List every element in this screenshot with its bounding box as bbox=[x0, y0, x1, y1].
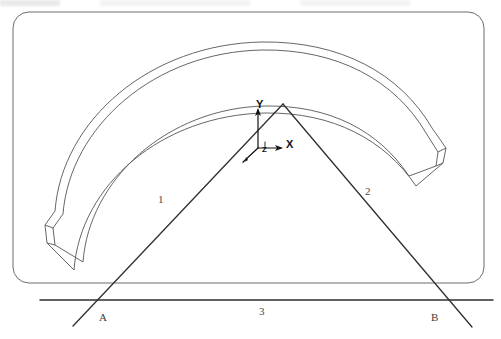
label-line-1: 1 bbox=[158, 194, 164, 205]
label-point-b: B bbox=[431, 312, 438, 323]
arch-left-end-face bbox=[45, 211, 74, 270]
arch-left-end-face-inner bbox=[53, 214, 83, 262]
label-line-2: 2 bbox=[365, 186, 371, 197]
arch-near-inner-arc bbox=[83, 106, 409, 262]
z-axis-line bbox=[243, 148, 258, 162]
slope-line-2 bbox=[283, 104, 472, 327]
slope-lines-group bbox=[73, 104, 472, 327]
arch-vault-body bbox=[45, 42, 446, 270]
diagram-vector-layer bbox=[0, 0, 501, 339]
label-axis-x: X bbox=[286, 139, 293, 150]
arch-right-end-face bbox=[416, 128, 446, 186]
arch-far-outer-arc bbox=[55, 42, 432, 211]
label-axis-y: Y bbox=[256, 99, 263, 110]
coordinate-axes-triad bbox=[241, 108, 283, 164]
label-point-a: A bbox=[99, 312, 107, 323]
arch-left-end-bevel-edge bbox=[45, 225, 53, 228]
label-line-3: 3 bbox=[259, 306, 265, 317]
slope-line-1 bbox=[73, 104, 283, 326]
frame-rounded-rect bbox=[13, 12, 484, 283]
arch-right-end-face-inner bbox=[409, 133, 438, 176]
label-axis-z: Z bbox=[262, 146, 267, 154]
arch-right-end-bevel-edge bbox=[438, 148, 446, 152]
diagram-canvas: 1 2 3 A B X Y Z bbox=[0, 0, 501, 339]
arch-far-inner-arc bbox=[63, 50, 426, 214]
